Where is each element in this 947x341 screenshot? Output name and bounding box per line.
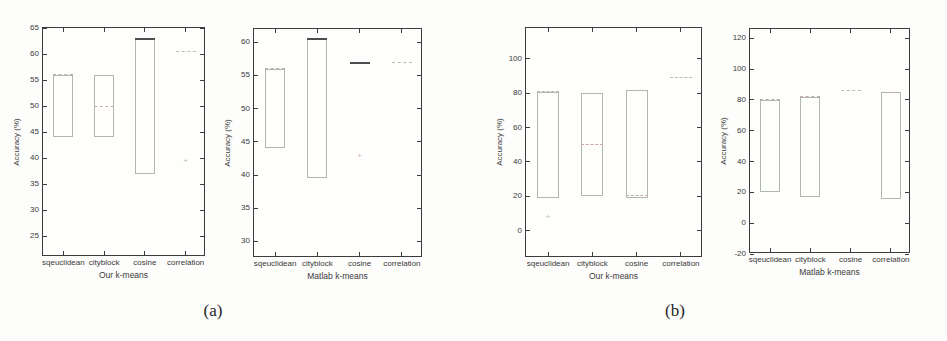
y-tick-mark-right xyxy=(200,106,204,107)
y-tick-mark-right xyxy=(697,58,701,59)
y-tick-mark xyxy=(254,175,258,176)
x-tick-mark xyxy=(401,252,402,256)
y-tick-mark xyxy=(43,210,47,211)
median-line xyxy=(881,92,901,93)
x-category-label: correlation xyxy=(157,258,215,267)
y-tick-mark xyxy=(750,69,754,70)
subfigure-caption-a: (a) xyxy=(193,301,233,321)
y-tick-mark xyxy=(526,127,530,128)
y-tick-label: 100 xyxy=(498,54,522,64)
x-axis-label: Our k-means xyxy=(43,270,204,280)
y-tick-label: 60 xyxy=(15,49,39,59)
y-tick-mark-right xyxy=(697,230,701,231)
y-tick-mark xyxy=(750,192,754,193)
y-tick-label: 120 xyxy=(722,33,746,43)
box-cosine xyxy=(626,90,648,198)
x-category-label: correlation xyxy=(652,259,710,268)
degenerate-box-line xyxy=(350,62,370,64)
y-tick-label: 40 xyxy=(226,170,250,180)
x-axis-label: Matlab k-means xyxy=(750,267,909,277)
y-tick-mark xyxy=(526,58,530,59)
y-tick-mark-right xyxy=(417,208,421,209)
x-tick-mark-top xyxy=(592,28,593,32)
y-tick-mark xyxy=(750,38,754,39)
y-axis-label: Accuracy (%) xyxy=(223,119,232,167)
x-tick-mark-top xyxy=(185,28,186,32)
x-tick-mark xyxy=(770,248,771,252)
y-tick-mark xyxy=(43,80,47,81)
y-tick-mark-right xyxy=(417,241,421,242)
paper-figure-boxplots: (a) (b) 656055504540353025sqeuclideancit… xyxy=(0,0,947,341)
y-tick-mark xyxy=(254,42,258,43)
y-tick-mark xyxy=(254,108,258,109)
y-tick-mark xyxy=(43,158,47,159)
y-tick-mark-right xyxy=(905,69,909,70)
degenerate-box-line xyxy=(392,62,412,63)
y-tick-mark-right xyxy=(697,93,701,94)
y-tick-label: 30 xyxy=(15,205,39,215)
y-tick-label: 30 xyxy=(226,236,250,246)
x-tick-mark-top xyxy=(810,29,811,33)
y-tick-label: 80 xyxy=(722,95,746,105)
x-tick-mark-top xyxy=(770,29,771,33)
box-cityblock xyxy=(307,39,327,178)
y-tick-mark xyxy=(750,130,754,131)
y-tick-label: 50 xyxy=(15,101,39,111)
y-tick-mark-right xyxy=(200,184,204,185)
box-cityblock xyxy=(800,97,820,197)
y-tick-label: 100 xyxy=(722,64,746,74)
y-tick-mark-right xyxy=(417,108,421,109)
y-tick-mark-right xyxy=(905,38,909,39)
box-sqeuclidean xyxy=(265,69,285,149)
x-tick-mark xyxy=(275,252,276,256)
x-tick-mark-top xyxy=(359,29,360,33)
y-tick-mark xyxy=(750,223,754,224)
median-line xyxy=(265,68,285,69)
y-tick-label: 20 xyxy=(722,187,746,197)
x-category-label: correlation xyxy=(373,259,431,268)
degenerate-box-line xyxy=(176,51,196,52)
x-tick-mark-top xyxy=(850,29,851,33)
median-line xyxy=(94,106,114,107)
y-tick-mark xyxy=(526,196,530,197)
y-tick-label: 60 xyxy=(226,37,250,47)
y-tick-mark-right xyxy=(905,192,909,193)
x-tick-mark-top xyxy=(890,29,891,33)
y-tick-mark xyxy=(750,161,754,162)
y-tick-mark-right xyxy=(697,127,701,128)
y-tick-mark-right xyxy=(697,161,701,162)
x-tick-mark-top xyxy=(548,28,549,32)
x-tick-mark xyxy=(359,252,360,256)
x-tick-mark xyxy=(63,251,64,255)
outlier-marker: + xyxy=(182,157,189,164)
axes-panel-a-left: 656055504540353025sqeuclideancityblockco… xyxy=(42,27,205,256)
y-tick-mark xyxy=(254,75,258,76)
x-tick-mark xyxy=(680,252,681,256)
y-tick-mark-right xyxy=(200,132,204,133)
y-tick-mark-right xyxy=(200,28,204,29)
y-tick-mark xyxy=(43,106,47,107)
y-tick-mark xyxy=(43,54,47,55)
y-tick-label: 55 xyxy=(226,70,250,80)
median-line xyxy=(760,99,780,100)
y-tick-label: 35 xyxy=(15,179,39,189)
y-tick-mark-right xyxy=(200,54,204,55)
x-tick-mark-top xyxy=(401,29,402,33)
degenerate-box-line xyxy=(841,90,861,91)
y-tick-mark xyxy=(254,208,258,209)
y-tick-mark xyxy=(526,230,530,231)
x-tick-mark-top xyxy=(275,29,276,33)
x-category-label: correlation xyxy=(862,255,920,264)
y-tick-mark-right xyxy=(905,130,909,131)
y-axis-label: Accuracy (%) xyxy=(495,118,504,166)
y-tick-mark-right xyxy=(200,210,204,211)
x-tick-mark xyxy=(850,248,851,252)
y-tick-mark-right xyxy=(200,236,204,237)
y-tick-mark-right xyxy=(417,141,421,142)
y-tick-label: 50 xyxy=(226,104,250,114)
y-tick-mark-right xyxy=(417,75,421,76)
axes-panel-b-left: 100806040200sqeuclideancityblockcosineco… xyxy=(525,27,702,257)
subfigure-caption-b: (b) xyxy=(655,301,695,321)
box-cosine xyxy=(135,38,155,173)
y-tick-mark-right xyxy=(200,80,204,81)
